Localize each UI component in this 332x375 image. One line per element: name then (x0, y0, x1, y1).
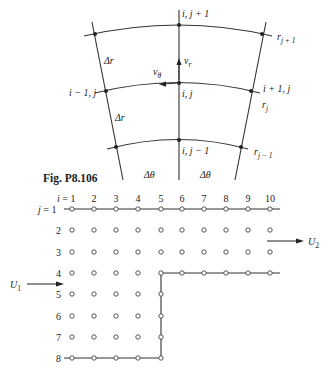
column-label: 6 (180, 193, 185, 204)
grid-node-icon (202, 271, 206, 275)
grid-node-icon (246, 207, 250, 211)
grid-node-icon (92, 207, 96, 211)
row-label: 4 (56, 268, 61, 279)
grid-node-icon (92, 228, 96, 232)
grid-node-icon (70, 292, 74, 296)
row-label: 7 (56, 332, 61, 343)
node-top-left (93, 32, 97, 36)
grid-node-icon (159, 250, 163, 254)
column-label: 7 (202, 193, 207, 204)
row-header-j-1: j = 1 (36, 204, 56, 215)
grid-node-icon (159, 314, 163, 318)
column-label: 4 (136, 193, 141, 204)
grid-node-icon (114, 228, 118, 232)
diagram-canvas: i, j + 1 i, j i, j − 1 i − 1, j i + 1, j… (0, 0, 332, 375)
grid-node-icon (202, 207, 206, 211)
grid-node-icon (136, 335, 140, 339)
grid-node-icon (180, 250, 184, 254)
label-node-i-j-plus-1: i, j + 1 (182, 8, 209, 19)
row-label: 2 (56, 225, 61, 236)
polar-grid-figure: i, j + 1 i, j i, j − 1 i − 1, j i + 1, j… (69, 8, 296, 180)
grid-node-icon (70, 314, 74, 318)
radial-line-left (92, 22, 123, 180)
label-delta-r-upper: Δr (103, 55, 114, 66)
row-label: 6 (56, 311, 61, 322)
grid-node-icon (136, 314, 140, 318)
label-node-i-j: i, j (182, 88, 193, 99)
grid-node-icon (114, 271, 118, 275)
node-bot-left (114, 145, 118, 149)
grid-node-icon (202, 228, 206, 232)
column-label: 3 (114, 193, 119, 204)
grid-node-icon (180, 207, 184, 211)
grid-node-icon (92, 250, 96, 254)
grid-node-icon (268, 271, 272, 275)
node-mid-right (249, 89, 253, 93)
vtheta-arrow-head-icon (159, 82, 166, 87)
grid-node-icon (70, 335, 74, 339)
grid-node-icon (114, 292, 118, 296)
label-delta-theta-left: Δθ (143, 169, 155, 180)
node-bot-center (177, 138, 181, 142)
figure-caption: Fig. P8.106 (43, 172, 98, 185)
column-label: 9 (246, 193, 251, 204)
grid-node-icon (136, 292, 140, 296)
label-v-r: vr (184, 55, 191, 69)
label-node-i-plus-1-j: i + 1, j (263, 83, 291, 94)
row-label: 5 (56, 289, 61, 300)
label-node-i-minus-1-j: i − 1, j (69, 87, 97, 98)
finite-difference-grid: i = 1 j = 1 U1 U2 23456789102345678 (10, 193, 319, 364)
grid-node-icon (92, 271, 96, 275)
grid-node-icon (268, 207, 272, 211)
grid-node-icon (114, 250, 118, 254)
column-label: 10 (265, 193, 275, 204)
grid-node-icon (114, 356, 118, 360)
grid-node-icon (224, 250, 228, 254)
node-bot-right (239, 145, 243, 149)
grid-node-icon (136, 250, 140, 254)
row-label: 8 (56, 353, 61, 364)
vr-arrow-head-icon (177, 58, 182, 65)
row-label: 3 (56, 247, 61, 258)
grid-node-icon (70, 228, 74, 232)
label-u2: U2 (308, 236, 319, 250)
grid-node-icon (246, 228, 250, 232)
grid-node-icon (92, 335, 96, 339)
label-u1: U1 (10, 279, 21, 293)
column-label: 2 (92, 193, 97, 204)
label-r-j-minus-1: rj − 1 (254, 146, 273, 160)
grid-node-icon (92, 314, 96, 318)
grid-node-icon (70, 356, 74, 360)
grid-node-icon (159, 207, 163, 211)
node-top-center (177, 23, 181, 27)
grid-node-icon (246, 271, 250, 275)
grid-node-icon (136, 356, 140, 360)
node-top-right (260, 32, 264, 36)
grid-node-icon (224, 271, 228, 275)
u1-arrow-head-icon (56, 282, 64, 287)
grid-node-icon (224, 207, 228, 211)
grid-node-icon (136, 207, 140, 211)
label-v-theta: vθ (153, 66, 161, 80)
label-r-j: rj (262, 99, 268, 113)
grid-node-icon (202, 250, 206, 254)
grid-node-icon (268, 250, 272, 254)
grid-node-icon (92, 292, 96, 296)
grid-node-icon (70, 250, 74, 254)
grid-node-icon (114, 314, 118, 318)
column-header-i-1: i = 1 (57, 193, 75, 204)
grid-node-icon (159, 228, 163, 232)
grid-node-icon (159, 356, 163, 360)
grid-node-icon (224, 228, 228, 232)
grid-node-icon (70, 207, 74, 211)
grid-node-icon (92, 356, 96, 360)
grid-node-icon (159, 292, 163, 296)
column-label: 5 (159, 193, 164, 204)
node-mid-left (104, 89, 108, 93)
u2-arrow-head-icon (296, 239, 304, 244)
grid-node-icon (180, 271, 184, 275)
grid-node-icon (159, 335, 163, 339)
grid-node-icon (246, 250, 250, 254)
grid-node-icon (70, 271, 74, 275)
label-delta-r-lower: Δr (114, 112, 125, 123)
